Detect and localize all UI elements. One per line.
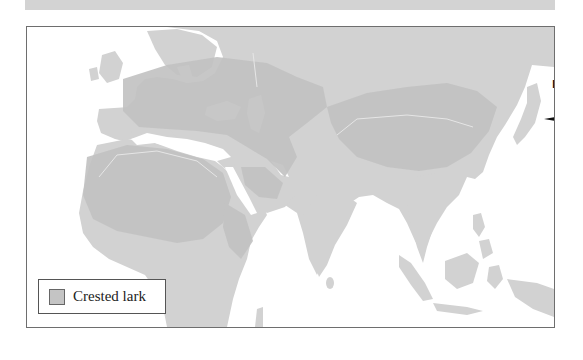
compass-star-icon [544, 91, 555, 161]
legend-swatch-crested-lark [49, 289, 65, 305]
legend-label-crested-lark: Crested lark [73, 288, 146, 305]
header-band [25, 0, 555, 10]
north-compass: N [544, 79, 555, 159]
crested-lark-range [83, 57, 497, 259]
range-map: N Crested lark [26, 26, 555, 328]
compass-north-label: N [552, 79, 555, 90]
map-legend: Crested lark [38, 279, 166, 314]
